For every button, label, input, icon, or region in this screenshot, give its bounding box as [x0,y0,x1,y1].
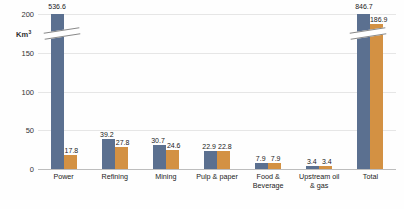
y-axis-tick-label: 200 [4,10,34,19]
bar-value-label: 27.8 [116,139,130,146]
bar-group: 846.7186.9 [357,14,383,169]
bar-group: 3.43.4 [306,14,332,169]
gridline [38,169,396,170]
bar[interactable] [64,155,77,169]
bar[interactable] [166,150,179,169]
bar-value-label: 846.7 [355,3,373,10]
bar[interactable] [217,151,230,169]
y-axis-tick-labels: 050100150200 [0,14,34,169]
bar[interactable] [370,24,383,169]
bar[interactable] [153,145,166,169]
y-axis-tick-label: 150 [4,48,34,57]
y-axis-tick-label: 50 [4,126,34,135]
bar[interactable] [102,139,115,169]
bar[interactable] [306,166,319,169]
bar-value-label: 7.9 [271,155,281,162]
bar-value-label: 3.4 [307,158,317,165]
x-axis-label-line: Total [338,172,402,181]
bar-value-label: 17.8 [65,147,79,154]
bar-value-label: 536.6 [48,3,66,10]
bar-chart: Km3 050100150200 536.617.839.227.830.724… [0,0,404,209]
bar[interactable] [319,166,332,169]
bar-group: 30.724.6 [153,14,179,169]
bar-value-label: 24.6 [167,142,181,149]
bar-group: 39.227.8 [102,14,128,169]
bar-group: 22.922.8 [204,14,230,169]
bar[interactable] [115,147,128,169]
bar-group: 536.617.8 [51,14,77,169]
x-axis-category-labels: PowerRefiningMiningPulp & paperFood &Bev… [38,172,396,208]
bar[interactable] [204,151,217,169]
bar-value-label: 3.4 [322,158,332,165]
bar-value-label: 7.9 [256,155,266,162]
bar-value-label: 22.9 [202,143,216,150]
y-axis-tick-label: 100 [4,87,34,96]
x-axis-label-line: & gas [287,181,351,190]
bar[interactable] [268,163,281,169]
bar-value-label: 186.9 [370,16,388,23]
y-axis-tick-label: 0 [4,165,34,174]
bar[interactable] [255,163,268,169]
bar-group: 7.97.9 [255,14,281,169]
bar-value-label: 22.8 [218,143,232,150]
bar-value-label: 39.2 [100,131,114,138]
x-axis-category-label: Total [338,172,402,181]
plot-area: 536.617.839.227.830.724.622.922.87.97.93… [38,14,396,169]
bar-value-label: 30.7 [151,137,165,144]
